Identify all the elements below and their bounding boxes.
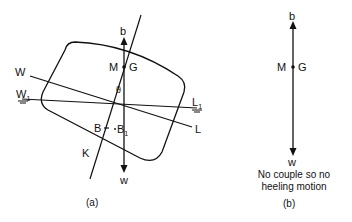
arrow-up-icon	[121, 37, 128, 45]
mg-point	[122, 65, 126, 69]
note-line-1: No couple so no	[256, 169, 332, 180]
label-g-right: G	[298, 62, 307, 73]
label-g: G	[129, 62, 138, 73]
label-b-right: b	[289, 11, 295, 22]
arrow-down-icon	[121, 165, 128, 173]
arrow-down-icon-b	[290, 148, 297, 156]
label-l: L	[195, 124, 201, 135]
label-l1: L1	[192, 97, 202, 109]
b1-point	[114, 128, 116, 130]
label-bb: B	[94, 123, 101, 134]
waterline-wl	[30, 76, 192, 127]
label-w: W	[15, 67, 25, 78]
label-m: M	[109, 62, 118, 73]
label-w-weight: w	[120, 175, 128, 186]
label-k: K	[82, 148, 89, 159]
label-theta: θ	[116, 85, 121, 96]
caption-a: (a)	[86, 197, 98, 208]
mg-point-b	[291, 65, 295, 69]
caption-b: (b)	[283, 198, 295, 209]
label-b1: B1	[117, 124, 128, 136]
label-b: b	[120, 26, 126, 37]
note-line-2: heeling motion	[256, 181, 332, 192]
arrow-up-icon-b	[290, 21, 297, 29]
label-w-right: w	[288, 157, 296, 168]
label-m-right: M	[277, 62, 286, 73]
water-surface-icon-right	[192, 110, 202, 112]
waterline-w1l1	[22, 99, 197, 108]
label-w1: W1	[16, 89, 30, 101]
